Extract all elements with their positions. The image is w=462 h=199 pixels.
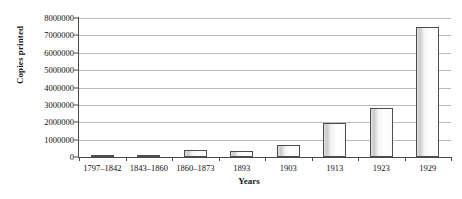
x-axis-tick-label: 1797–1842 [83,163,121,173]
x-axis-tick-mark [312,157,313,161]
x-axis-tick-label: 1903 [280,163,297,173]
bar-chart-figure: Copies printed 0100000020000003000000400… [0,0,462,199]
bar [323,123,346,157]
x-axis-tick-mark [219,157,220,161]
x-axis-tick-labels: 1797–18421843–18601860–18731893190319131… [79,163,451,177]
x-axis-tick-label: 1913 [326,163,343,173]
gridline [79,70,451,71]
gridline [79,122,451,123]
bar [370,108,393,157]
gridlines [79,18,451,157]
x-axis-tick-label: 1843–1860 [130,163,168,173]
x-axis-tick-mark [172,157,173,161]
gridline [79,18,451,19]
gridline [79,35,451,36]
bar [184,150,207,157]
x-axis-title: Years [0,176,462,186]
gridline [79,140,451,141]
x-axis-tick-label: 1893 [233,163,250,173]
y-axis-tick-marks [0,18,79,157]
bar [277,145,300,157]
plot-area [79,18,451,157]
x-axis-tick-marks [79,157,451,162]
x-axis-tick-label: 1860–1873 [176,163,214,173]
x-axis-tick-mark [79,157,80,161]
x-axis-tick-mark [451,157,452,161]
x-axis-tick-label: 1923 [373,163,390,173]
gridline [79,88,451,89]
bar [416,27,439,157]
x-axis-tick-label: 1929 [419,163,436,173]
gridline [79,53,451,54]
x-axis-tick-mark [126,157,127,161]
x-axis-tick-mark [405,157,406,161]
x-axis-tick-mark [358,157,359,161]
gridline [79,105,451,106]
x-axis-tick-mark [265,157,266,161]
